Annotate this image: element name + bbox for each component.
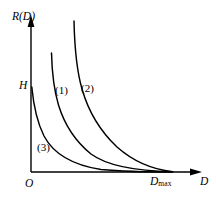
curve-1-label: (1) — [55, 85, 68, 96]
curve-3-label: (3) — [37, 142, 50, 153]
rate-distortion-plot — [0, 0, 216, 204]
y-axis-label: R(D) — [12, 11, 35, 23]
curve-2-label: (2) — [81, 83, 94, 94]
origin-label: O — [25, 178, 33, 190]
dmax-subscript: max — [158, 179, 171, 188]
rate-distortion-figure: R(D) D O H Dmax (1) (2) (3) — [0, 0, 216, 204]
entropy-h-label: H — [19, 80, 27, 92]
curve-1-path — [52, 53, 173, 172]
x-axis-label: D — [200, 176, 208, 188]
curve-2-path — [74, 21, 173, 172]
dmax-label: Dmax — [150, 176, 172, 188]
